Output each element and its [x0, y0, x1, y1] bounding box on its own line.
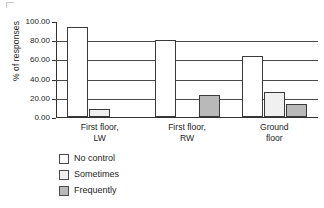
x-axis-line: [56, 117, 318, 118]
y-axis-tick: [52, 60, 56, 61]
bar-chart-figure: % of responses 100.0080.0060.0040.0020.0…: [0, 0, 324, 208]
bar: [199, 95, 220, 117]
y-axis-tick-label: 80.00: [4, 36, 50, 45]
legend-swatch: [59, 170, 69, 180]
y-axis-tick-label: 60.00: [4, 55, 50, 64]
y-axis-tick: [52, 99, 56, 100]
legend-label: Frequently: [74, 185, 117, 195]
bar: [286, 104, 307, 117]
y-axis-tick: [52, 41, 56, 42]
x-axis-category-label: First floor,LW: [56, 122, 143, 143]
plot-area: [56, 22, 318, 118]
y-axis-tick-label: 100.00: [4, 17, 50, 26]
y-axis-tick-label: 40.00: [4, 75, 50, 84]
category-label-line1: Ground: [260, 122, 289, 132]
x-axis-category-label: Groundfloor: [231, 122, 318, 143]
legend-label: Sometimes: [74, 169, 119, 179]
y-axis-tick: [52, 22, 56, 23]
category-label-line1: First floor,: [81, 122, 119, 132]
category-label-line2: floor: [231, 133, 318, 144]
legend-label: No control: [74, 153, 115, 163]
bar: [242, 56, 263, 117]
gridline: [56, 41, 318, 42]
gridline: [56, 60, 318, 61]
legend-swatch: [59, 154, 69, 164]
category-label-line1: First floor,: [168, 122, 206, 132]
category-label-line2: LW: [56, 133, 143, 144]
bar: [264, 92, 285, 117]
y-axis-tick: [52, 118, 56, 119]
bar: [155, 40, 176, 117]
bar: [67, 27, 88, 117]
bar: [89, 109, 110, 117]
y-axis-tick: [52, 80, 56, 81]
category-label-line2: RW: [143, 133, 230, 144]
y-axis-line: [56, 22, 57, 118]
x-axis-category-label: First floor,RW: [143, 122, 230, 143]
legend-swatch: [59, 186, 69, 196]
y-axis-tick-label: 0.00: [4, 113, 50, 122]
gridline: [56, 80, 318, 81]
y-axis-tick-label: 20.00: [4, 94, 50, 103]
